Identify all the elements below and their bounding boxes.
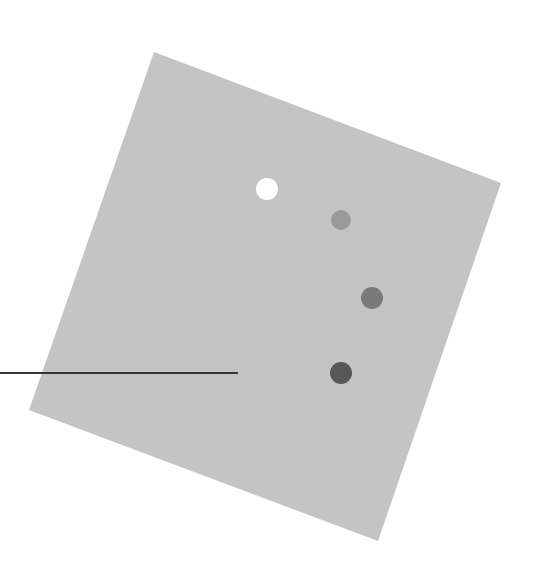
rotated-square-panel xyxy=(29,52,501,541)
diagram-canvas xyxy=(0,0,545,567)
dot-medium-gray xyxy=(361,287,383,309)
diagram-scene xyxy=(0,0,545,567)
dot-dark-gray xyxy=(330,362,352,384)
dot-light-gray xyxy=(331,210,351,230)
dot-white xyxy=(256,178,278,200)
